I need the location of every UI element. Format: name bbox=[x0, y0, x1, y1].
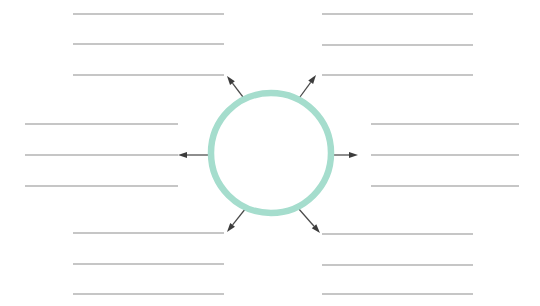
arrow-shaft bbox=[233, 208, 246, 225]
arrow-left bbox=[178, 152, 211, 158]
center-shape-layer bbox=[211, 93, 331, 213]
writing-lines-layer bbox=[25, 14, 519, 294]
arrow-shaft bbox=[298, 208, 314, 226]
arrow-head bbox=[178, 152, 187, 158]
radial-diagram bbox=[0, 0, 540, 306]
worksheet-canvas bbox=[0, 0, 540, 306]
lines-middle-left bbox=[25, 124, 178, 186]
lines-bottom-left bbox=[73, 233, 224, 294]
arrow-head bbox=[349, 152, 358, 158]
lines-top-right bbox=[322, 14, 473, 75]
arrow-head bbox=[308, 75, 316, 84]
lines-middle-right bbox=[371, 124, 519, 186]
arrow-head bbox=[227, 76, 235, 85]
arrow-right bbox=[331, 152, 358, 158]
arrow-down-left bbox=[227, 208, 246, 232]
lines-bottom-right bbox=[322, 234, 473, 294]
arrow-down-right bbox=[298, 208, 320, 233]
center-circle[interactable] bbox=[211, 93, 331, 213]
lines-top-left bbox=[73, 14, 224, 75]
